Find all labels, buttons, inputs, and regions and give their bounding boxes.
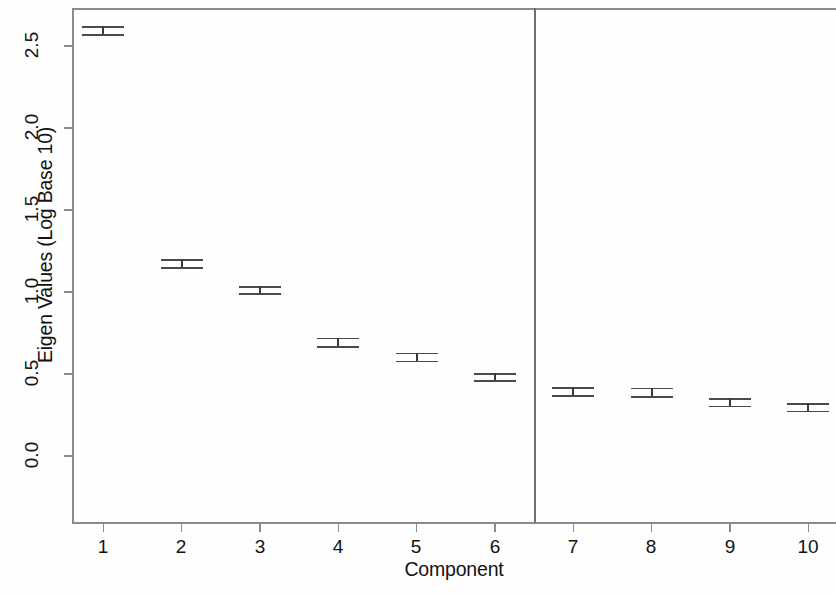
retention-cutoff-line xyxy=(534,8,536,523)
data-point-errorbar xyxy=(396,351,438,363)
data-point-errorbar xyxy=(787,401,829,412)
x-tick-mark xyxy=(338,523,340,532)
errorbar-cap-lower xyxy=(631,396,673,398)
data-point-errorbar xyxy=(317,336,359,348)
x-axis-label: Component xyxy=(72,558,836,581)
x-tick-mark xyxy=(181,523,183,532)
errorbar-stem xyxy=(181,259,183,267)
x-tick-label: 5 xyxy=(396,536,436,558)
errorbar-cap-lower xyxy=(82,34,124,36)
x-tick-label: 10 xyxy=(788,536,828,558)
data-point-errorbar xyxy=(82,24,124,36)
y-axis-label: Eigen Values (Log Base 10) xyxy=(30,10,60,480)
errorbar-stem xyxy=(102,26,104,34)
x-tick-mark xyxy=(808,523,810,532)
x-tick-label: 8 xyxy=(631,536,671,558)
x-tick-label: 6 xyxy=(475,536,515,558)
x-tick-mark xyxy=(259,523,261,532)
errorbar-stem xyxy=(807,403,809,410)
errorbar-stem xyxy=(651,388,653,396)
x-tick-label: 1 xyxy=(83,536,123,558)
errorbar-stem xyxy=(572,387,574,395)
y-tick-label: 2.5 xyxy=(21,21,43,69)
axis-bottom-spine xyxy=(72,522,836,524)
data-point-errorbar xyxy=(552,385,594,397)
x-tick-mark xyxy=(494,523,496,532)
y-tick-mark xyxy=(64,455,73,457)
x-tick-mark xyxy=(573,523,575,532)
data-point-errorbar xyxy=(631,386,673,398)
y-tick-mark xyxy=(64,209,73,211)
errorbar-cap-lower xyxy=(474,380,516,382)
y-tick-label: 1.0 xyxy=(21,267,43,315)
data-point-errorbar xyxy=(474,371,516,382)
x-tick-label: 7 xyxy=(553,536,593,558)
y-tick-mark xyxy=(64,45,73,47)
errorbar-stem xyxy=(416,353,418,361)
y-tick-label: 2.0 xyxy=(21,103,43,151)
y-tick-label: 1.5 xyxy=(21,185,43,233)
x-tick-label: 4 xyxy=(318,536,358,558)
y-tick-label: 0.0 xyxy=(21,431,43,479)
errorbar-cap-lower xyxy=(709,406,751,408)
scree-plot-figure: Eigen Values (Log Base 10) Component 2.5… xyxy=(0,0,836,594)
errorbar-stem xyxy=(494,373,496,380)
y-tick-label: 0.5 xyxy=(21,349,43,397)
x-tick-mark xyxy=(416,523,418,532)
y-tick-mark xyxy=(64,127,73,129)
x-tick-label: 3 xyxy=(240,536,280,558)
errorbar-cap-lower xyxy=(396,361,438,363)
data-point-errorbar xyxy=(709,396,751,407)
data-point-errorbar xyxy=(239,284,281,295)
errorbar-cap-lower xyxy=(552,395,594,397)
errorbar-cap-lower xyxy=(239,293,281,295)
axis-left-spine xyxy=(72,8,74,523)
x-tick-mark xyxy=(651,523,653,532)
x-tick-label: 9 xyxy=(710,536,750,558)
x-tick-mark xyxy=(103,523,105,532)
errorbar-stem xyxy=(729,398,731,405)
errorbar-cap-lower xyxy=(161,267,203,269)
y-tick-mark xyxy=(64,373,73,375)
errorbar-cap-lower xyxy=(317,346,359,348)
x-tick-label: 2 xyxy=(161,536,201,558)
axis-top-spine xyxy=(72,8,836,10)
y-tick-mark xyxy=(64,291,73,293)
data-point-errorbar xyxy=(161,257,203,269)
errorbar-stem xyxy=(337,338,339,346)
errorbar-stem xyxy=(259,286,261,293)
errorbar-cap-lower xyxy=(787,411,829,413)
x-tick-mark xyxy=(729,523,731,532)
